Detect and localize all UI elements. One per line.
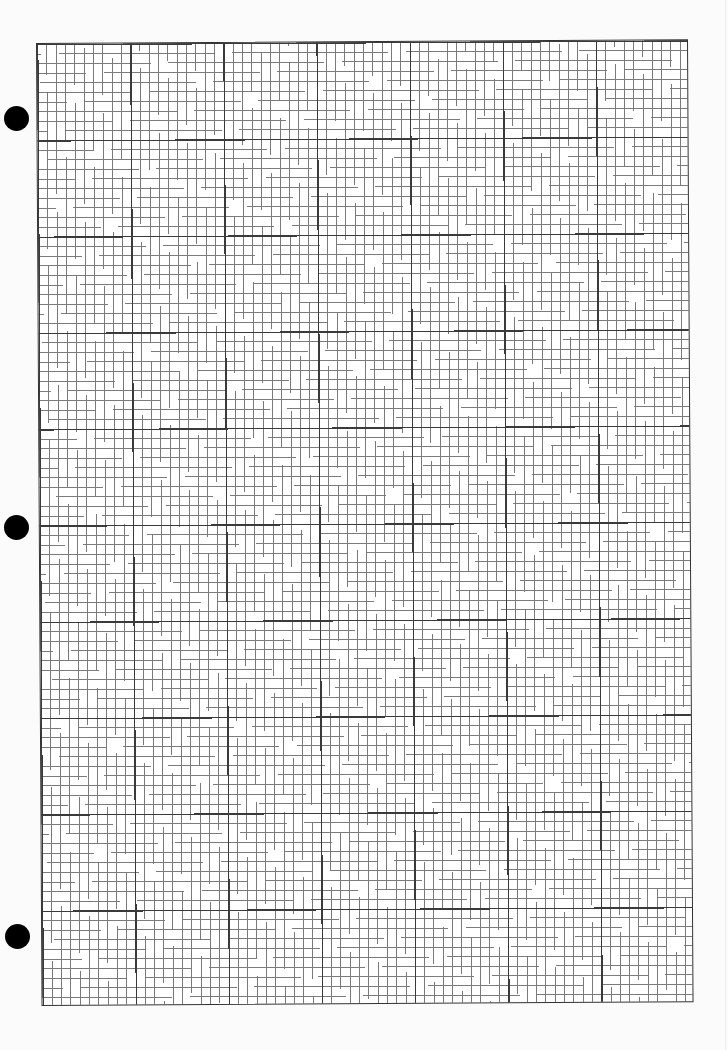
graph-paper-page <box>0 0 728 1050</box>
punch-hole-middle <box>4 515 29 540</box>
millimeter-grid <box>36 39 694 1006</box>
punch-hole-bottom <box>5 924 30 949</box>
paper-edge <box>725 0 726 1050</box>
punch-hole-top <box>4 106 29 131</box>
